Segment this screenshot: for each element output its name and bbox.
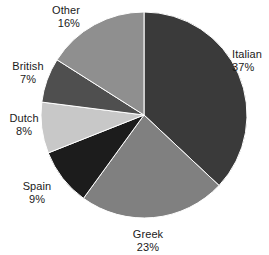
pie-label-spain-value: 9%: [12, 193, 62, 206]
pie-label-greek: Greek 23%: [118, 228, 178, 254]
pie-label-spain-name: Spain: [12, 180, 62, 193]
pie-slice-group: [41, 12, 247, 218]
pie-label-british-value: 7%: [2, 73, 54, 86]
pie-label-greek-name: Greek: [118, 228, 178, 241]
pie-label-british-name: British: [2, 60, 54, 73]
pie-chart-figure: Other 16% British 7% Dutch 8% Spain 9% G…: [0, 0, 269, 255]
pie-label-other-value: 16%: [6, 17, 80, 30]
pie-label-other-name: Other: [6, 4, 80, 17]
pie-label-italian-name: Italian: [232, 48, 268, 61]
pie-label-other: Other 16%: [6, 4, 80, 30]
pie-label-dutch-name: Dutch: [0, 112, 48, 125]
pie-label-greek-value: 23%: [118, 241, 178, 254]
pie-label-british: British 7%: [2, 60, 54, 86]
pie-label-italian-value: 37%: [232, 61, 268, 74]
pie-label-dutch-value: 8%: [0, 125, 48, 138]
pie-label-dutch: Dutch 8%: [0, 112, 48, 138]
pie-label-italian: Italian 37%: [232, 48, 268, 74]
pie-label-spain: Spain 9%: [12, 180, 62, 206]
